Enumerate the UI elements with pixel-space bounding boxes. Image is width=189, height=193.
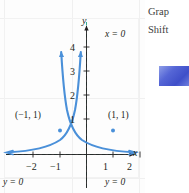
y-tick-label-3: 3	[70, 67, 75, 77]
point-label-1-1: (1, 1)	[108, 111, 129, 121]
y-axis-label: y	[82, 16, 86, 26]
side-heading-text: Grap	[148, 6, 169, 17]
graph-panel: y x 4 3 2 1 −2 −1 1 2 (−1, 1) (1, 1) x =…	[0, 0, 145, 193]
point-label-minus-1-1: (−1, 1)	[15, 111, 41, 121]
asymptote-label-y-equals-0-right: y = 0	[105, 178, 125, 188]
figure-root: y x 4 3 2 1 −2 −1 1 2 (−1, 1) (1, 1) x =…	[0, 0, 189, 193]
x-tick-label-minus-1: −1	[50, 162, 61, 172]
y-tick-label-4: 4	[70, 43, 75, 53]
x-axis-label: x	[133, 148, 137, 158]
asymptote-label-y-equals-0-left: y = 0	[3, 178, 23, 188]
asymptote-label-x-equals-0: x = 0	[105, 30, 125, 40]
side-text-column: Grap Shift	[148, 0, 189, 193]
y-tick-label-1: 1	[70, 115, 75, 125]
data-point-right	[111, 129, 115, 133]
y-tick-label-2: 2	[70, 91, 75, 101]
data-point-left	[58, 129, 62, 133]
x-tick-label-1: 1	[103, 162, 108, 172]
blue-color-swatch	[159, 66, 189, 86]
x-tick-label-2: 2	[127, 162, 132, 172]
x-tick-label-minus-2: −2	[26, 162, 37, 172]
side-subheading-text: Shift	[148, 24, 168, 35]
